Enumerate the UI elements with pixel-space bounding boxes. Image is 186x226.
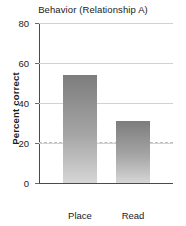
gridline-80 xyxy=(39,23,173,24)
bar-read[interactable] xyxy=(116,121,150,183)
chance-level-reference-line xyxy=(39,142,173,143)
y-tick-60: 60 xyxy=(35,63,39,64)
y-tick-40: 40 xyxy=(35,103,39,104)
y-tick-20: 20 xyxy=(35,143,39,144)
x-axis-line xyxy=(39,183,173,184)
y-tick-label-40: 40 xyxy=(18,98,29,109)
y-tick-0: 0 xyxy=(35,183,39,184)
y-tick-label-0: 0 xyxy=(24,178,29,189)
gridline-20 xyxy=(39,143,173,144)
gridline-60 xyxy=(39,63,173,64)
x-tick-label-read: Read xyxy=(122,210,145,221)
y-tick-label-60: 60 xyxy=(18,58,29,69)
y-tick-label-20: 20 xyxy=(18,138,29,149)
bar-place[interactable] xyxy=(63,75,97,183)
bar-chart-figure: Behavior (Relationship A) Percent correc… xyxy=(0,0,186,226)
y-tick-label-80: 80 xyxy=(18,18,29,29)
y-tick-80: 80 xyxy=(35,23,39,24)
plot-area: 80 60 40 20 0 Place Read xyxy=(39,23,173,183)
chart-title: Behavior (Relationship A) xyxy=(0,4,186,15)
gridline-40 xyxy=(39,103,173,104)
x-tick-label-place: Place xyxy=(68,210,92,221)
